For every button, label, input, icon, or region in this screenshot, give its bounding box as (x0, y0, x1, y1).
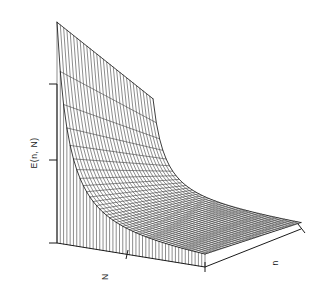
mesh-line (153, 99, 301, 223)
mesh-line (77, 170, 173, 172)
mesh-line (146, 209, 242, 236)
mesh-line (103, 59, 251, 239)
mesh-line (87, 183, 183, 192)
surface-mesh (57, 22, 301, 267)
tick-n-end (298, 224, 305, 233)
mesh-line (57, 22, 205, 254)
mesh-line (80, 176, 176, 179)
mesh-line (74, 35, 222, 248)
surface-plot-figure: E(n, N) N n (0, 0, 325, 303)
x-axis-label-N: N (100, 264, 110, 290)
mesh-line (77, 38, 225, 247)
y-axis-label: E(n, N) (29, 113, 39, 193)
x-axis-label-n: n (270, 250, 280, 276)
